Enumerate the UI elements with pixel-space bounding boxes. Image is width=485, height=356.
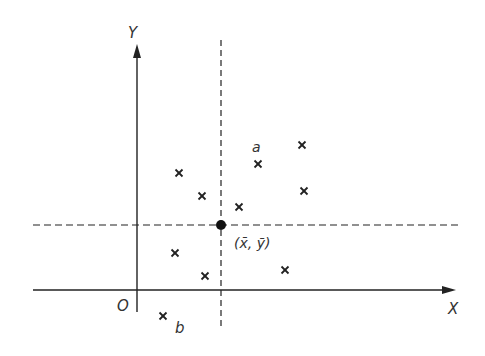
- y-axis-arrow-icon: [133, 44, 141, 58]
- cross-marker-icon: [199, 193, 206, 200]
- cross-marker-icon: [236, 204, 243, 211]
- cross-marker-icon: [172, 250, 179, 257]
- cross-marker-icon: [255, 161, 262, 168]
- cross-marker-icon: [160, 313, 167, 320]
- x-axis-label: X: [447, 300, 459, 318]
- cross-marker-icon: [282, 267, 289, 274]
- cross-marker-icon: [299, 142, 306, 149]
- cross-marker-icon: [176, 170, 183, 177]
- origin-label: O: [117, 297, 129, 315]
- x-axis-arrow-icon: [442, 286, 456, 294]
- point-a-label: a: [252, 139, 261, 155]
- point-b-label: b: [175, 319, 185, 337]
- mean-point-dot: [216, 220, 226, 230]
- data-points: [160, 142, 308, 320]
- scatter-diagram: Y X O (x̄, ȳ) a b: [0, 0, 485, 356]
- cross-marker-icon: [202, 273, 209, 280]
- y-axis-label: Y: [128, 24, 139, 42]
- cross-marker-icon: [301, 188, 308, 195]
- mean-point-label: (x̄, ȳ): [234, 235, 270, 251]
